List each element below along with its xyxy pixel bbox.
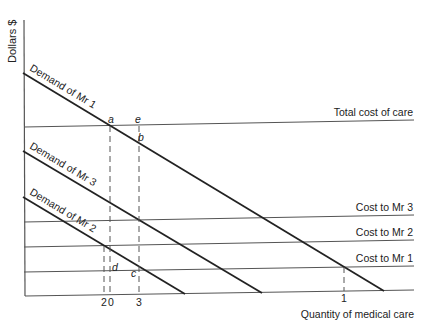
- x-axis: [25, 290, 414, 296]
- cost-to-mr1-label: Cost to Mr 1: [356, 252, 413, 264]
- point-e-label: e: [135, 113, 141, 125]
- medical-care-cost-diagram: Dollars $ Demand of Mr 1 Demand of Mr 3 …: [0, 0, 426, 333]
- y-axis: [24, 20, 25, 296]
- y-axis-label: Dollars $: [6, 20, 18, 63]
- x-axis-label: Quantity of medical care: [301, 308, 414, 320]
- x-tick-3: 3: [136, 296, 142, 308]
- cost-to-mr2-label: Cost to Mr 2: [356, 226, 413, 238]
- demand-mr3-label: Demand of Mr 3: [28, 139, 99, 188]
- point-a-label: a: [108, 113, 114, 125]
- cost-to-mr2-line: [24, 240, 414, 247]
- point-d-label: d: [112, 261, 119, 273]
- x-tick-0: 0: [108, 296, 114, 308]
- cost-to-mr3-label: Cost to Mr 3: [356, 201, 413, 213]
- demand-mr1-label: Demand of Mr 1: [28, 61, 99, 110]
- point-c-label: c: [131, 267, 137, 279]
- total-cost-label: Total cost of care: [334, 106, 414, 118]
- x-tick-1: 1: [341, 292, 347, 304]
- x-tick-2: 2: [101, 296, 107, 308]
- point-b-label: b: [138, 131, 144, 143]
- demand-mr2-label: Demand of Mr 2: [28, 185, 99, 234]
- total-cost-line: [24, 120, 414, 127]
